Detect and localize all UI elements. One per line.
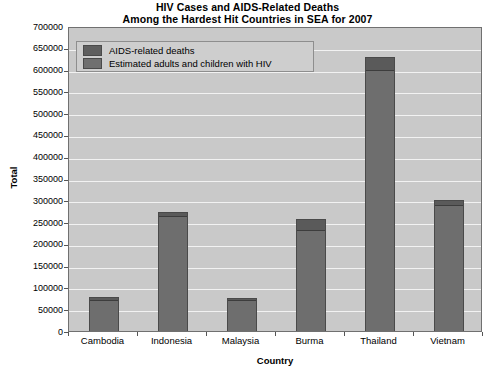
legend-item-label: AIDS-related deaths xyxy=(109,45,195,56)
bar-segment-aids-deaths xyxy=(90,298,118,301)
bar-segment-aids-deaths xyxy=(228,299,256,301)
x-axis-tick-label: Indonesia xyxy=(137,336,206,346)
bar-segment-aids-deaths xyxy=(297,220,325,231)
gridline xyxy=(69,137,481,138)
bar xyxy=(227,298,257,332)
y-axis-tick-label: 200000 xyxy=(0,240,63,249)
bar xyxy=(296,219,326,332)
gridline xyxy=(69,268,481,269)
y-axis-tick-label: 500000 xyxy=(0,110,63,119)
gridline xyxy=(69,72,481,73)
bar xyxy=(434,200,464,332)
y-axis-tick-label: 450000 xyxy=(0,131,63,140)
x-axis-title: Country xyxy=(68,355,482,366)
x-axis-tick-mark xyxy=(275,332,276,336)
y-axis-tick-label: 550000 xyxy=(0,88,63,97)
y-axis-tick-label: 0 xyxy=(0,328,63,337)
y-axis-tick-label: 700000 xyxy=(0,23,63,32)
x-axis-tick-label: Thailand xyxy=(344,336,413,346)
x-axis-tick-mark xyxy=(344,332,345,336)
bar xyxy=(89,297,119,332)
x-axis-tick-mark xyxy=(137,332,138,336)
chart-legend: AIDS-related deaths Estimated adults and… xyxy=(76,41,314,72)
gridline xyxy=(69,202,481,203)
y-axis-tick-label: 150000 xyxy=(0,262,63,271)
legend-item-label: Estimated adults and children with HIV xyxy=(109,58,272,69)
gridline xyxy=(69,289,481,290)
bar-segment-aids-deaths xyxy=(159,213,187,217)
bar-segment-aids-deaths xyxy=(435,201,463,207)
y-axis-title: Total xyxy=(8,148,19,208)
y-axis-tick-label: 100000 xyxy=(0,284,63,293)
gridline xyxy=(69,93,481,94)
x-axis-tick-label: Burma xyxy=(275,336,344,346)
gridline xyxy=(69,311,481,312)
x-axis-tick-mark xyxy=(482,332,483,336)
y-axis-tick-label: 50000 xyxy=(0,306,63,315)
gridline xyxy=(69,224,481,225)
chart-container: HIV Cases and AIDS-Related Deaths Among … xyxy=(0,0,495,378)
x-axis-tick-label: Malaysia xyxy=(206,336,275,346)
plot-area xyxy=(68,27,482,332)
gridline xyxy=(69,159,481,160)
bar xyxy=(158,212,188,332)
legend-swatch-icon xyxy=(83,45,102,56)
gridline xyxy=(69,181,481,182)
bar xyxy=(365,57,395,332)
y-axis-tick-label: 600000 xyxy=(0,66,63,75)
y-axis-tick-label: 650000 xyxy=(0,44,63,53)
x-axis-tick-mark xyxy=(68,332,69,336)
y-axis-tick-label: 250000 xyxy=(0,219,63,228)
legend-swatch-icon xyxy=(83,58,102,69)
gridline xyxy=(69,115,481,116)
x-axis-tick-label: Cambodia xyxy=(68,336,137,346)
gridline xyxy=(69,246,481,247)
x-axis-tick-label: Vietnam xyxy=(413,336,482,346)
x-axis-tick-mark xyxy=(413,332,414,336)
x-axis-tick-mark xyxy=(206,332,207,336)
bar-segment-aids-deaths xyxy=(366,58,394,71)
